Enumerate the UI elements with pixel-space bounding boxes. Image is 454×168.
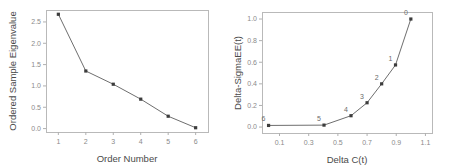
y-axis-ticks: 0.00.51.01.52.02.5 bbox=[31, 18, 46, 132]
data-point-marker bbox=[365, 101, 368, 104]
x-axis-title: Order Number bbox=[97, 153, 158, 164]
y-tick-label: 0.2 bbox=[247, 102, 257, 109]
data-point-marker bbox=[394, 63, 397, 66]
x-axis-ticks: 123456 bbox=[56, 132, 197, 145]
x-axis-ticks: 0.10.30.50.70.91.1 bbox=[275, 133, 431, 146]
chart-panel-left: 0.00.51.01.52.02.5 123456 Order Number O… bbox=[0, 0, 227, 168]
x-tick-label: 0.1 bbox=[275, 139, 285, 146]
data-point-label: 2 bbox=[375, 74, 379, 81]
data-point-marker bbox=[139, 98, 142, 101]
y-tick-label: 0.0 bbox=[247, 123, 257, 130]
x-tick-label: 0.5 bbox=[333, 139, 343, 146]
delta-sigma-plot-svg: 0.00.20.40.60.81.0 0.10.30.50.70.91.1 65… bbox=[227, 0, 454, 168]
y-axis-title: Ordered Sample Eigenvalue bbox=[7, 11, 18, 130]
x-tick-label: 6 bbox=[194, 138, 198, 145]
x-tick-label: 0.9 bbox=[391, 139, 401, 146]
data-point-label: 3 bbox=[360, 93, 364, 100]
x-tick-label: 5 bbox=[166, 138, 170, 145]
y-tick-label: 2.0 bbox=[31, 40, 41, 47]
series-line bbox=[269, 19, 411, 125]
y-tick-label: 0.8 bbox=[247, 37, 257, 44]
plot-area-left bbox=[47, 11, 209, 133]
data-point-marker bbox=[409, 17, 412, 20]
y-axis-ticks: 0.00.20.40.60.81.0 bbox=[247, 15, 262, 130]
x-tick-label: 1.1 bbox=[421, 139, 431, 146]
data-point-label: 5 bbox=[317, 115, 321, 122]
x-tick-label: 2 bbox=[84, 138, 88, 145]
y-tick-label: 0.0 bbox=[31, 125, 41, 132]
y-axis-title: Delta-SigmaEE(t) bbox=[232, 36, 243, 110]
data-point-marker bbox=[57, 13, 60, 16]
x-tick-label: 0.7 bbox=[362, 139, 372, 146]
scree-plot-svg: 0.00.51.01.52.02.5 123456 Order Number O… bbox=[0, 0, 227, 168]
data-point-label: 6 bbox=[262, 115, 266, 122]
data-point-marker bbox=[167, 115, 170, 118]
x-tick-label: 0.3 bbox=[304, 139, 314, 146]
data-point-label: 0 bbox=[404, 9, 408, 16]
data-series bbox=[57, 13, 197, 130]
y-tick-label: 0.6 bbox=[247, 59, 257, 66]
data-point-marker bbox=[380, 82, 383, 85]
chart-panel-right: 0.00.20.40.60.81.0 0.10.30.50.70.91.1 65… bbox=[227, 0, 454, 168]
x-tick-label: 1 bbox=[56, 138, 60, 145]
point-labels: 6543210 bbox=[262, 9, 408, 122]
y-tick-label: 1.0 bbox=[31, 82, 41, 89]
data-point-marker bbox=[194, 126, 197, 129]
data-point-label: 4 bbox=[344, 106, 348, 113]
x-axis-title: Delta C(t) bbox=[327, 154, 368, 165]
x-tick-label: 3 bbox=[111, 138, 115, 145]
y-tick-label: 1.0 bbox=[247, 15, 257, 22]
data-point-marker bbox=[112, 83, 115, 86]
data-point-label: 1 bbox=[389, 55, 393, 62]
y-tick-label: 1.5 bbox=[31, 61, 41, 68]
data-point-marker bbox=[349, 114, 352, 117]
x-tick-label: 4 bbox=[139, 138, 143, 145]
y-tick-label: 2.5 bbox=[31, 18, 41, 25]
data-point-marker bbox=[84, 69, 87, 72]
series-line bbox=[58, 14, 195, 127]
y-tick-label: 0.4 bbox=[247, 80, 257, 87]
figure-canvas: 0.00.51.01.52.02.5 123456 Order Number O… bbox=[0, 0, 454, 168]
plot-frame bbox=[47, 11, 209, 133]
data-series bbox=[267, 17, 412, 127]
y-tick-label: 0.5 bbox=[31, 104, 41, 111]
data-point-marker bbox=[267, 124, 270, 127]
data-point-marker bbox=[322, 124, 325, 127]
